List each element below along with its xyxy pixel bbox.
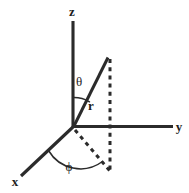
phi-label: ϕ bbox=[66, 159, 73, 174]
ground-projection-line bbox=[75, 130, 110, 171]
phi-arc bbox=[49, 151, 103, 169]
spherical-coordinate-diagram: z y x r θ ϕ bbox=[0, 0, 189, 193]
x-axis-label: x bbox=[12, 174, 19, 189]
z-axis-label: z bbox=[69, 4, 75, 19]
radius-vector-line bbox=[74, 58, 109, 128]
theta-label: θ bbox=[76, 74, 82, 89]
radius-label: r bbox=[88, 98, 94, 113]
y-axis-label: y bbox=[176, 119, 183, 134]
diagram-canvas: z y x r θ ϕ bbox=[0, 0, 189, 193]
